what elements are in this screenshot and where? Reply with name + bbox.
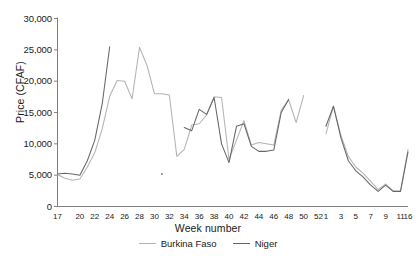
- x-tick-label: 28: [135, 212, 144, 221]
- x-tick-label: 42: [239, 212, 248, 221]
- legend-label-burkina-faso: Burkina Faso: [161, 239, 217, 249]
- legend-item-burkina-faso: Burkina Faso: [139, 239, 217, 249]
- legend-label-niger: Niger: [255, 239, 278, 249]
- x-tick-label: 44: [254, 212, 263, 221]
- x-tick-label: 46: [269, 212, 278, 221]
- x-tick-label: 36: [195, 212, 204, 221]
- x-tick-label: 32: [165, 212, 174, 221]
- x-tick-label: 9: [383, 212, 387, 221]
- x-tick-label: 50: [299, 212, 308, 221]
- x-tick-label: 5: [354, 212, 358, 221]
- legend-swatch-burkina-faso: [139, 243, 156, 244]
- x-tick-label: 26: [120, 212, 129, 221]
- x-tick-label: 38: [210, 212, 219, 221]
- legend-swatch-niger: [233, 243, 250, 244]
- x-tick-label: 24: [105, 212, 114, 221]
- chart-figure: Price (CFAF) 30,00025,00020,00015,00010,…: [0, 0, 416, 261]
- x-tick-label: 7: [368, 212, 372, 221]
- x-tick-label: 52: [314, 212, 323, 221]
- x-tick-label: 17: [53, 212, 62, 221]
- x-tick-label: 3: [339, 212, 343, 221]
- legend-item-niger: Niger: [233, 239, 278, 249]
- x-tick-label: 34: [180, 212, 189, 221]
- x-tick-label: 40: [225, 212, 234, 221]
- x-tick-label: 1: [324, 212, 328, 221]
- x-tick-label: 22: [90, 212, 99, 221]
- x-tick-label: 16: [404, 212, 413, 221]
- chart-legend: Burkina Faso Niger: [0, 239, 416, 249]
- x-axis-title: Week number: [0, 222, 416, 234]
- x-tick-label: 20: [75, 212, 84, 221]
- x-tick-label: 30: [150, 212, 159, 221]
- x-tick-label: 48: [284, 212, 293, 221]
